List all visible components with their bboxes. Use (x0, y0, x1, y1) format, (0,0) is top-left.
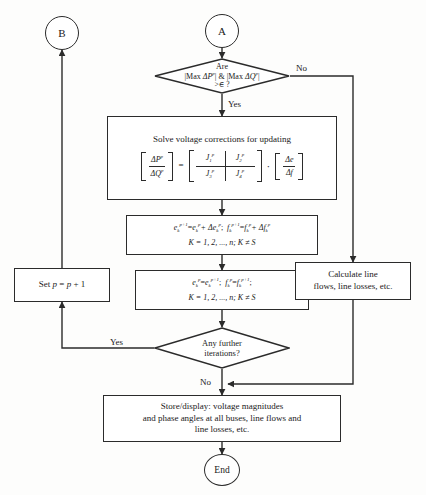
lhs-vector: ΔPp ΔQp (141, 152, 174, 181)
process-copy-voltages: ekp=ekp+1; fkp=fkp+1; K = 1, 2, ..., n; … (135, 270, 309, 310)
label-no-convergence: No (296, 63, 307, 73)
solve-box-equation: ΔPp ΔQp = J1p J2p J3p J4p (141, 150, 304, 182)
decision-iterations-line1: Any further (202, 338, 242, 348)
jacobian-matrix: J1p J2p J3p J4p (189, 150, 262, 182)
lhs-dq: ΔQp (149, 167, 166, 180)
flowchart-canvas: B A Are |Max ΔPp| & |Max ΔQp| >∈ ? Yes N… (0, 0, 426, 495)
j4-cell: J4p (226, 167, 255, 182)
calc-box-line1: Calculate line (328, 269, 378, 281)
copy-box-line1: ekp=ekp+1; fkp=fkp+1; (192, 277, 251, 290)
decision-iterations-line2: iterations? (204, 348, 239, 358)
connector-b: B (45, 16, 79, 50)
copy-box-line2: K = 1, 2, ..., n; K ≠ S (188, 293, 255, 303)
rhs-vector: Δe Δf (275, 153, 303, 180)
store-box-line2: and phase angles at all buses, line flow… (143, 413, 302, 425)
j1-cell: J1p (196, 151, 226, 166)
label-yes-convergence: Yes (228, 99, 241, 109)
j3-cell: J3p (196, 167, 226, 182)
connector-a: A (205, 14, 239, 48)
decision-any-further-iterations: Any further iterations? (154, 327, 290, 369)
process-set-p: Set p = p + 1 (14, 268, 110, 302)
dc-l2-a: |Max (184, 72, 202, 81)
terminator-end-label: End (214, 465, 229, 475)
j2-cell: J2p (226, 151, 255, 166)
equals-sign: = (177, 160, 184, 172)
decision-convergence-line3: >∈ ? (215, 81, 230, 90)
dot-operator: · (266, 161, 272, 172)
process-store-display-results: Store/display: voltage magnitudes and ph… (103, 395, 341, 442)
calc-box-line2: flows, line losses, etc. (314, 281, 393, 293)
connector-a-label: A (218, 25, 226, 37)
store-box-line3: line losses, etc. (195, 424, 250, 436)
process-update-voltages: ekp+1=ekp+ Δekp; fkp+1=fkp+ Δfkp K = 1, … (126, 215, 318, 255)
update-box-line1: ekp+1=ekp+ Δekp; fkp+1=fkp+ Δfkp (174, 222, 271, 235)
label-no-iterations: No (200, 377, 211, 387)
lhs-dp: ΔPp (149, 153, 166, 167)
process-calculate-line-flows: Calculate line flows, line losses, etc. (295, 262, 411, 300)
rhs-de: Δe (283, 154, 295, 167)
decision-convergence-line1: Are (216, 62, 228, 71)
solve-box-heading: Solve voltage corrections for updating (153, 134, 291, 146)
label-yes-iterations: Yes (110, 337, 123, 347)
decision-convergence: Are |Max ΔPp| & |Max ΔQp| >∈ ? (154, 58, 290, 94)
process-solve-voltage-corrections: Solve voltage corrections for updating Δ… (107, 116, 337, 200)
terminator-end: End (204, 454, 240, 486)
connector-b-label: B (58, 27, 65, 39)
set-p-text: Set p = p + 1 (39, 279, 85, 291)
store-box-line1: Store/display: voltage magnitudes (161, 401, 283, 413)
update-box-line2: K = 1, 2, ..., n; K ≠ S (188, 238, 255, 248)
rhs-df: Δf (283, 167, 295, 179)
dc-l2-close: | (258, 72, 260, 81)
